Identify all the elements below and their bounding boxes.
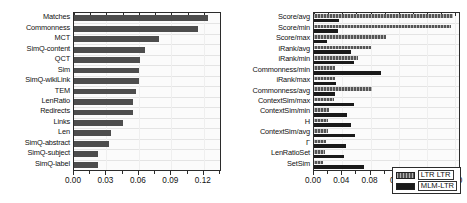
bar: [314, 66, 335, 70]
legend-label: MLM-LTR: [418, 181, 457, 191]
category-label: iRank/avg: [278, 45, 310, 53]
gridline-horizontal: [314, 76, 459, 77]
legend-item: MLM-LTR: [396, 181, 457, 191]
gridline-horizontal: [74, 23, 220, 24]
category-label: SetSim: [287, 160, 310, 168]
category-label: iRank/min: [278, 55, 310, 63]
axis-tick-major: [105, 171, 106, 175]
legend-swatch: [396, 172, 415, 179]
axis-tick-major: [138, 171, 139, 175]
axis-tick-minor: [327, 171, 328, 174]
category-label: Score/avg: [278, 13, 310, 21]
left-chart-panel: MatchesCommonnessMCTSimQ-contentQCTSimSi…: [0, 0, 234, 203]
axis-tick-major: [370, 171, 371, 175]
axis-tick-major: [313, 171, 314, 175]
axis-tick-minor: [355, 171, 356, 174]
bar: [74, 120, 123, 126]
category-label: ContextSim/min: [260, 107, 310, 115]
category-label: SimQ-subject: [27, 149, 70, 157]
gridline-horizontal: [314, 65, 459, 66]
category-label: Commonness: [26, 24, 70, 32]
gridline-horizontal: [74, 44, 220, 45]
gridline-horizontal: [74, 139, 220, 140]
bar: [74, 130, 111, 136]
bar: [314, 61, 354, 65]
axis-tick-top: [220, 13, 221, 16]
category-label: LenRatio: [42, 97, 70, 105]
category-label: SimQ-abstract: [25, 139, 70, 147]
axis-tick-label: 0.09: [162, 176, 178, 186]
bar: [314, 155, 344, 159]
bar: [314, 71, 381, 75]
bar: [74, 78, 139, 84]
category-label: TEM: [55, 87, 70, 95]
category-label: Redirects: [40, 107, 70, 115]
bar: [74, 151, 98, 157]
bar: [74, 15, 208, 21]
category-label: Len: [58, 128, 70, 136]
gridline-horizontal: [314, 160, 459, 161]
axis-tick-minor: [89, 171, 90, 174]
legend-label: LTR LTR: [418, 170, 454, 180]
category-label: H: [305, 118, 310, 126]
right-chart-plot-area: [313, 12, 460, 171]
bar: [314, 92, 335, 96]
axis-tick-major: [203, 171, 204, 175]
axis-tick-top: [455, 13, 456, 16]
bar: [74, 99, 133, 105]
bar: [314, 123, 351, 127]
legend-item: LTR LTR: [396, 170, 457, 180]
bar: [314, 98, 334, 102]
category-label: Score/min: [278, 24, 310, 32]
chart-legend: LTR LTRMLM-LTR: [392, 167, 461, 194]
category-label: ContextSim/avg: [260, 128, 310, 136]
category-label: SimQ-content: [27, 45, 70, 53]
axis-tick-minor: [187, 171, 188, 174]
bar: [74, 162, 98, 168]
category-label: SimQ-label: [35, 160, 70, 168]
category-label: LenRatioSet: [271, 149, 310, 157]
bar: [314, 144, 346, 148]
right-chart-panel: Score/avgScore/minScore/maxiRank/avgiRan…: [234, 0, 467, 203]
bar: [314, 29, 338, 33]
bar: [314, 19, 339, 23]
gridline-horizontal: [74, 160, 220, 161]
bar: [314, 134, 355, 138]
gridline-vertical: [204, 13, 205, 170]
axis-tick-label: 0.00: [65, 176, 81, 186]
gridline-horizontal: [314, 128, 459, 129]
left-chart-category-labels: MatchesCommonnessMCTSimQ-contentQCTSimSi…: [0, 12, 70, 171]
gridline-horizontal: [314, 149, 459, 150]
gridline-horizontal: [74, 65, 220, 66]
bar: [314, 108, 329, 112]
axis-tick-label: 0.06: [130, 176, 146, 186]
bar: [314, 25, 451, 29]
gridline-horizontal: [74, 128, 220, 129]
gridline-horizontal: [74, 76, 220, 77]
gridline-horizontal: [74, 149, 220, 150]
category-label: Score/max: [276, 34, 310, 42]
bar: [74, 110, 133, 116]
gridline-vertical: [455, 13, 456, 170]
category-label: Matches: [43, 13, 70, 21]
axis-tick-label: 0.03: [97, 176, 113, 186]
axis-tick-label: 0.04: [333, 176, 349, 186]
category-label: iRank/max: [276, 76, 310, 84]
category-label: SimQ-wikiLink: [25, 76, 70, 84]
gridline-horizontal: [74, 97, 220, 98]
category-label: Commonness/min: [253, 66, 310, 74]
bar: [314, 165, 364, 169]
gridline-horizontal: [314, 118, 459, 119]
right-chart-category-labels: Score/avgScore/minScore/maxiRank/avgiRan…: [234, 12, 310, 171]
category-label: Commonness/avg: [253, 87, 310, 95]
axis-tick-minor: [154, 171, 155, 174]
bar: [314, 82, 336, 86]
bar: [314, 46, 371, 50]
bar: [74, 57, 140, 63]
category-label: Sim: [58, 66, 70, 74]
axis-tick-minor: [219, 171, 220, 174]
axis-tick-label: 0.12: [195, 176, 211, 186]
bar: [74, 89, 136, 95]
axis-tick-label: 0.00: [305, 176, 321, 186]
bar: [74, 47, 145, 53]
